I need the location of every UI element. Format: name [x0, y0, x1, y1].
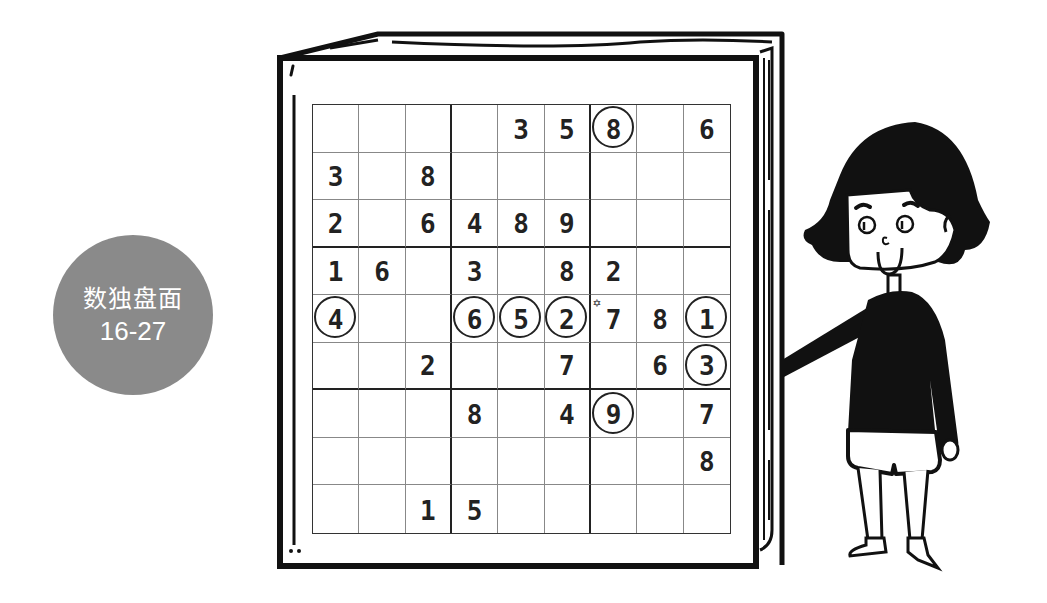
- girl-pointing-icon: [0, 0, 1047, 603]
